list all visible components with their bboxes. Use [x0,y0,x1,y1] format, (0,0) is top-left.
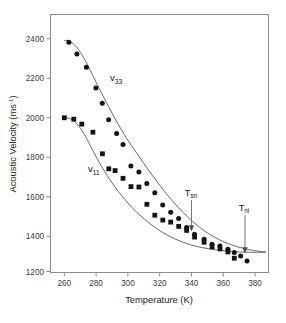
data-point [145,202,150,207]
data-point [113,168,118,173]
data-point [74,52,79,57]
data-point [93,86,98,91]
data-point [71,117,76,122]
x-axis-ticks [64,273,255,277]
data-point [152,213,157,218]
x-tick-label: 300 [121,279,135,288]
data-point [192,235,197,240]
x-tick-label: 380 [248,279,262,288]
data-point [129,184,134,189]
annotation-tni-subscript: ni [244,207,249,214]
annotation-tsn-subscript: sn [190,192,197,199]
data-point [160,203,165,208]
data-point [168,210,173,215]
annotation-tsn-label: Tsn [185,188,198,199]
data-point [160,218,165,223]
data-point [121,142,126,147]
annotation-tni: Tni [239,203,250,254]
data-point [137,185,142,190]
data-point [79,122,84,127]
data-point [232,250,237,255]
data-point [136,170,141,175]
data-point [106,117,111,122]
acoustic-velocity-figure: 2400 2200 2000 1800 1600 1400 1200 260 2… [0,0,286,323]
x-tick-label: 360 [216,279,230,288]
series-label-v33: v33 [110,72,122,85]
annotation-tni-label: Tni [239,203,250,214]
chart-canvas: 2400 2200 2000 1800 1600 1400 1200 260 2… [0,0,286,323]
y-tick-label: 2000 [26,114,45,123]
y-axis-tick-labels: 2400 2200 2000 1800 1600 1400 1200 [26,35,45,277]
data-point [144,181,149,186]
y-tick-label: 2200 [26,74,45,83]
data-point [152,190,157,195]
data-point [218,247,223,252]
data-point [176,216,181,221]
data-point [210,245,215,250]
y-axis-title-close: ) [7,95,18,98]
data-point [176,224,181,229]
svg-text:Acoustic Velocity (ms-1): Acoustic Velocity (ms-1) [7,95,19,192]
plot-frame [51,15,269,273]
data-point [168,220,173,225]
y-axis-title: Acoustic Velocity (ms-1) [7,95,19,192]
y-axis-ticks [47,39,51,272]
data-point [121,176,126,181]
data-point [184,228,189,233]
y-tick-label: 1400 [26,232,45,241]
data-point [232,256,237,261]
x-axis-title: Temperature (K) [125,294,193,305]
data-point [91,130,96,135]
y-tick-label: 2400 [26,35,45,44]
data-point [202,240,207,245]
x-tick-label: 340 [185,279,199,288]
x-tick-label: 280 [89,279,103,288]
x-tick-label: 260 [57,279,71,288]
data-point [84,65,89,70]
series-label-v11-subscript: 11 [93,169,100,176]
data-point [114,131,119,136]
data-point [100,151,105,156]
data-point [66,40,71,45]
series-label-v11: v11 [88,163,100,176]
data-point [100,101,105,106]
data-point [106,166,111,171]
v11-data-points [62,115,237,260]
data-point [238,253,243,258]
v11-fit-curve [64,118,266,253]
x-axis-tick-labels: 260 280 300 320 340 360 380 [57,279,262,288]
y-tick-label: 1600 [26,193,45,202]
series-label-v33-subscript: 33 [115,78,123,85]
y-axis-title-text: Acoustic Velocity (ms [7,104,18,193]
y-tick-label: 1800 [26,153,45,162]
data-point [128,164,133,169]
data-point [245,259,250,264]
data-point [62,115,67,120]
data-point [226,250,231,255]
x-tick-label: 320 [153,279,167,288]
y-tick-label: 1200 [26,268,45,277]
